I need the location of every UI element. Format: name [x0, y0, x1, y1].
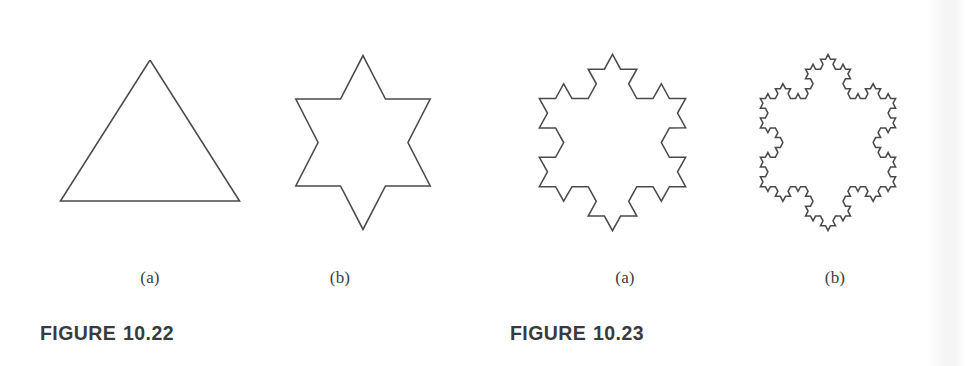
page-edge-shading [926, 0, 966, 366]
panel-10-22-b-label: (b) [310, 268, 370, 288]
figure-10-23-caption-word: FIGURE [510, 322, 586, 344]
equilateral-triangle-inverted-outline [60, 60, 239, 201]
figure-10-22-caption-number: 10.22 [123, 322, 174, 344]
panel-10-23-a-svg [500, 25, 725, 260]
koch-snowflake-iteration-1-star-of-david [258, 25, 468, 260]
panel-10-22-a-label: (a) [120, 268, 180, 288]
koch-snowflake-iteration-3-outline [760, 54, 895, 230]
figure-10-22-caption-word: FIGURE [40, 322, 116, 344]
panel-10-23-b-label: (b) [805, 268, 865, 288]
equilateral-triangle-inverted [40, 60, 260, 260]
koch-snowflake-iteration-3 [724, 25, 932, 260]
figure-10-23-caption: FIGURE10.23 [510, 322, 644, 345]
figure-10-23-caption-number: 10.23 [593, 322, 644, 344]
koch-snowflake-iteration-2 [500, 25, 725, 260]
koch-snowflake-iteration-2-outline [539, 54, 685, 230]
panel-10-23-a-label: (a) [595, 268, 655, 288]
panel-10-22-a-svg [40, 60, 260, 260]
panel-10-22-b-svg [258, 25, 468, 260]
textbook-figure-page: (a)(b)FIGURE10.22(a)(b)FIGURE10.23 [0, 0, 966, 366]
panel-10-23-b-svg [724, 25, 932, 260]
figure-10-22-caption: FIGURE10.22 [40, 322, 174, 345]
koch-snowflake-iteration-1-star-of-david-outline [296, 56, 430, 230]
